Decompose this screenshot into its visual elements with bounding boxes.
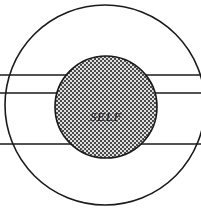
self-circle [55, 56, 157, 158]
diagram-canvas: SELF [0, 0, 201, 210]
self-label: SELF [90, 109, 122, 124]
diagram-svg: SELF [0, 0, 201, 210]
